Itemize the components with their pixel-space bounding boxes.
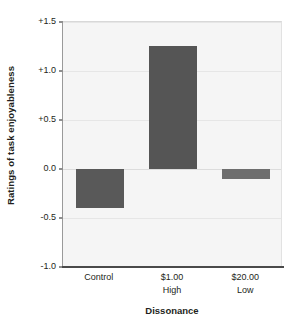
y-axis-tick-labels: +1.5+1.0+0.50.0-0.5-1.0 [22, 0, 60, 329]
x-tick-label-primary: $1.00 [161, 272, 184, 282]
y-tick-mark [59, 217, 63, 218]
gridline [63, 22, 281, 23]
y-tick-label: +1.0 [38, 65, 56, 75]
x-tick-label-secondary: Low [232, 284, 260, 297]
y-tick-mark [59, 168, 63, 169]
x-tick-label: Control [84, 271, 113, 284]
gridline [63, 218, 281, 219]
x-tick-label-primary: $20.00 [232, 272, 260, 282]
x-axis-title: Dissonance [62, 305, 282, 316]
x-tick-label: $1.00High [161, 271, 184, 296]
x-tick-label-primary: Control [84, 272, 113, 282]
y-tick-mark [59, 119, 63, 120]
bar [149, 46, 197, 169]
y-tick-label: +0.5 [38, 114, 56, 124]
y-tick-label: 0.0 [43, 163, 56, 173]
y-tick-mark [59, 70, 63, 71]
plot-area [62, 21, 282, 266]
y-axis-title: Ratings of task enjoyableness [0, 0, 22, 270]
bar-chart-figure: Ratings of task enjoyableness +1.5+1.0+0… [0, 0, 297, 329]
x-axis-tick-labels: Control$1.00High$20.00Low [62, 271, 282, 305]
y-axis-title-text: Ratings of task enjoyableness [6, 65, 17, 204]
x-axis-line [62, 266, 284, 268]
x-tick-label-secondary: High [161, 284, 184, 297]
plot-inner [63, 22, 281, 266]
y-tick-label: +1.5 [38, 16, 56, 26]
y-tick-mark [59, 21, 63, 22]
y-tick-label: -0.5 [40, 212, 56, 222]
y-tick-label: -1.0 [40, 261, 56, 271]
bar [222, 169, 270, 179]
bar [76, 169, 124, 208]
x-tick-label: $20.00Low [232, 271, 260, 296]
